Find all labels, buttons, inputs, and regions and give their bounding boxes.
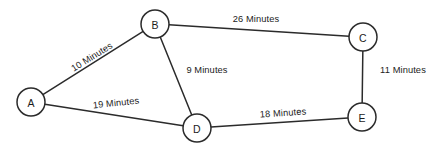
edge-weight-label-ce: 11 Minutes [380, 65, 426, 75]
graph-edge-ce [362, 51, 363, 103]
graph-diagram: ABCDE 10 Minutes26 Minutes9 Minutes19 Mi… [0, 0, 438, 151]
graph-node-label-c: C [359, 32, 367, 44]
graph-node-label-e: E [358, 112, 365, 124]
edge-weight-label-bd: 9 Minutes [186, 65, 227, 75]
graph-node-label-b: B [151, 19, 158, 31]
graph-edge-bd [160, 37, 192, 115]
edge-weight-label-ab: 10 Minutes [70, 40, 115, 73]
edge-weight-label-de: 18 Minutes [259, 106, 306, 119]
graph-edge-ab [43, 31, 143, 94]
graph-canvas: ABCDE 10 Minutes26 Minutes9 Minutes19 Mi… [0, 0, 438, 151]
graph-edge-de [211, 118, 348, 127]
graph-node-label-a: A [27, 97, 34, 109]
edges-group [43, 25, 363, 127]
graph-edge-bc [169, 25, 349, 36]
edge-weight-label-bc: 26 Minutes [233, 14, 280, 24]
edge-weight-label-ad: 19 Minutes [92, 96, 140, 111]
graph-node-label-d: D [193, 123, 201, 135]
